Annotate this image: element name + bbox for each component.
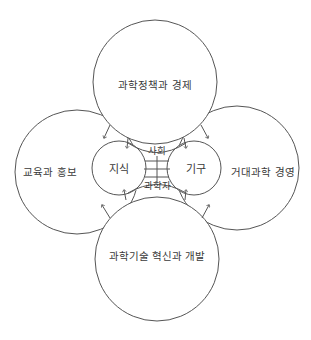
diagram-canvas: 과학정책과 경제 교육과 홍보 거대과학 경영 과학기술 혁신과 개발 지식 기… (0, 0, 311, 340)
label-scientist: 과학자 (144, 181, 171, 191)
label-institution: 기구 (186, 164, 206, 175)
label-education-outreach: 교육과 홍보 (23, 167, 76, 178)
label-knowledge: 지식 (109, 164, 129, 175)
label-policy-economy: 과학정책과 경제 (118, 80, 191, 91)
label-big-science-management: 거대과학 경영 (231, 167, 294, 178)
label-society: 사회 (148, 146, 166, 156)
label-innovation-development: 과학기술 혁신과 개발 (109, 251, 206, 262)
